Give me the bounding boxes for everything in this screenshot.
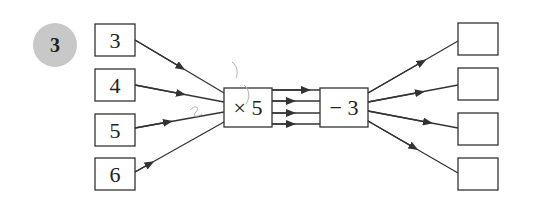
function-machine-diagram: 3 3 4 5 6 × 5 — [0, 0, 542, 205]
input-value: 4 — [110, 73, 121, 98]
output-arrows — [368, 41, 458, 173]
connecting-arrows — [272, 90, 320, 124]
input-value: 5 — [110, 118, 121, 143]
input-value: 3 — [110, 28, 121, 53]
subtract-operation-box: − 3 — [320, 88, 368, 127]
multiply-operation-box: × 5 — [224, 88, 272, 127]
output-box-3[interactable] — [458, 113, 498, 145]
input-box-1: 3 — [95, 24, 135, 56]
input-box-4: 6 — [95, 158, 135, 190]
input-box-3: 5 — [95, 114, 135, 146]
operation-label: − 3 — [330, 95, 359, 120]
problem-number: 3 — [50, 34, 60, 56]
input-arrows — [135, 40, 224, 172]
input-box-2: 4 — [95, 69, 135, 101]
input-value: 6 — [110, 162, 121, 187]
problem-number-badge: 3 — [33, 23, 77, 67]
output-box-2[interactable] — [458, 68, 498, 100]
output-box-1[interactable] — [458, 23, 498, 55]
output-box-4[interactable] — [458, 158, 498, 190]
